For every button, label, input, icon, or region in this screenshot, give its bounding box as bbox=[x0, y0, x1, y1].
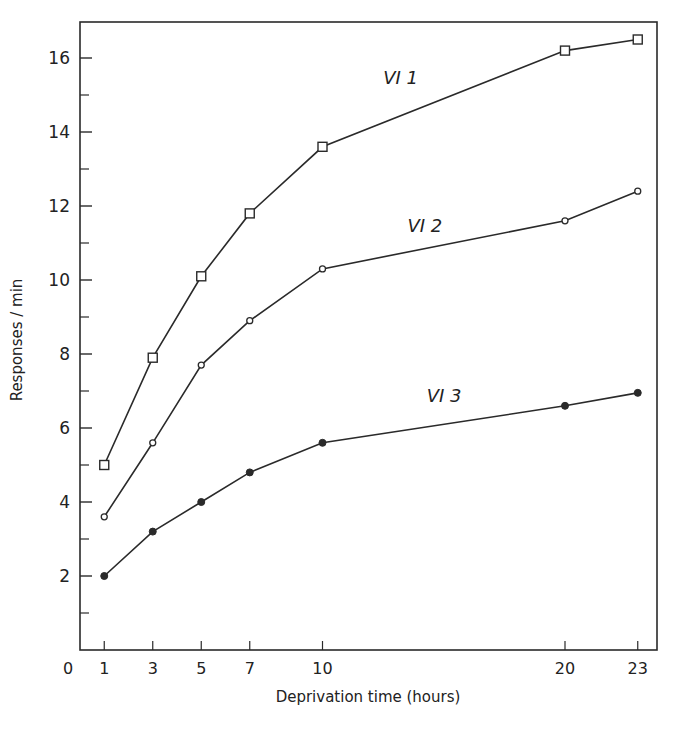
x-axis-label: Deprivation time (hours) bbox=[0, 688, 676, 706]
y-axis-label: Responses / min bbox=[8, 279, 26, 402]
filled-circle-marker bbox=[149, 528, 156, 535]
open-circle-marker bbox=[635, 188, 641, 194]
x-tick-label: 5 bbox=[196, 659, 206, 678]
filled-circle-marker bbox=[101, 573, 108, 580]
y-tick-label: 16 bbox=[48, 48, 70, 68]
filled-circle-marker bbox=[562, 402, 569, 409]
x-tick-label: 10 bbox=[312, 659, 332, 678]
open-circle-marker bbox=[198, 362, 204, 368]
series-line bbox=[104, 393, 638, 576]
filled-circle-marker bbox=[319, 439, 326, 446]
y-tick-label: 8 bbox=[59, 344, 70, 364]
series-line bbox=[104, 40, 638, 466]
x-tick-label: 0 bbox=[63, 659, 73, 678]
open-circle-marker bbox=[150, 440, 156, 446]
open-square-marker bbox=[318, 142, 327, 151]
y-tick-label: 10 bbox=[48, 270, 70, 290]
open-circle-marker bbox=[562, 218, 568, 224]
open-circle-marker bbox=[247, 318, 253, 324]
open-square-marker bbox=[197, 272, 206, 281]
series-label: VI 1 bbox=[383, 67, 418, 88]
y-tick-label: 6 bbox=[59, 418, 70, 438]
x-tick-label: 1 bbox=[99, 659, 109, 678]
x-tick-label: 7 bbox=[245, 659, 255, 678]
y-tick-label: 2 bbox=[59, 566, 70, 586]
series-label: VI 3 bbox=[427, 385, 462, 406]
filled-circle-marker bbox=[246, 469, 253, 476]
x-tick-label: 3 bbox=[148, 659, 158, 678]
filled-circle-marker bbox=[198, 499, 205, 506]
series-label: VI 2 bbox=[407, 215, 442, 236]
open-square-marker bbox=[100, 461, 109, 470]
open-circle-marker bbox=[101, 514, 107, 520]
y-tick-label: 4 bbox=[59, 492, 70, 512]
open-square-marker bbox=[148, 353, 157, 362]
y-tick-label: 14 bbox=[48, 122, 70, 142]
x-tick-label: 20 bbox=[555, 659, 575, 678]
open-square-marker bbox=[561, 46, 570, 55]
filled-circle-marker bbox=[634, 389, 641, 396]
y-tick-label: 12 bbox=[48, 196, 70, 216]
open-circle-marker bbox=[320, 266, 326, 272]
open-square-marker bbox=[633, 35, 642, 44]
series-line bbox=[104, 191, 638, 517]
line-chart: 24681012141601357102023VI 1VI 2VI 3 bbox=[0, 0, 676, 729]
open-square-marker bbox=[245, 209, 254, 218]
x-tick-label: 23 bbox=[628, 659, 648, 678]
